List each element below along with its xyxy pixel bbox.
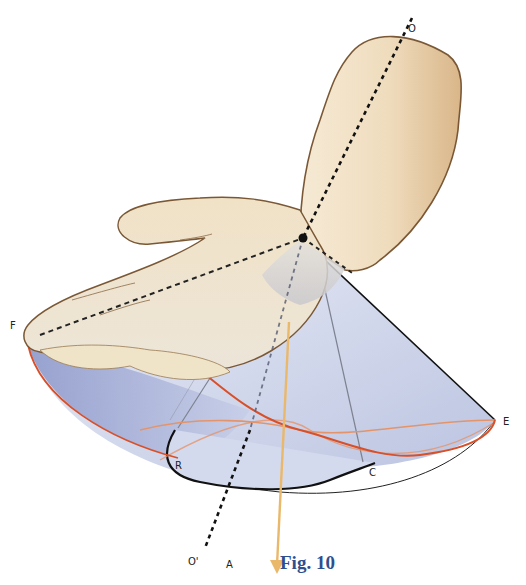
label-O-prime: O' bbox=[188, 557, 199, 567]
label-C: C bbox=[369, 468, 376, 478]
figure-caption: Fig. 10 bbox=[280, 553, 335, 572]
forearm bbox=[300, 37, 461, 271]
wrist-circumduction-diagram bbox=[0, 0, 526, 585]
label-A: A bbox=[226, 560, 233, 570]
label-F: F bbox=[10, 321, 16, 331]
label-E: E bbox=[503, 417, 509, 427]
label-R: R bbox=[175, 461, 182, 471]
apex-dot bbox=[299, 234, 308, 243]
label-O: O bbox=[408, 24, 416, 34]
